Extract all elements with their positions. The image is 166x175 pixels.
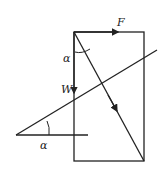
force-label: F bbox=[116, 16, 125, 29]
angle-arc-top bbox=[75, 49, 90, 53]
weight-label: W bbox=[61, 83, 74, 96]
angle-bottom-label: α bbox=[40, 139, 48, 152]
force-diagram: F W α α bbox=[0, 0, 166, 175]
angle-top-label: α bbox=[63, 52, 71, 65]
incline-line bbox=[16, 50, 157, 135]
angle-arc-bottom bbox=[47, 121, 49, 135]
diagonal-arrow bbox=[108, 95, 117, 111]
